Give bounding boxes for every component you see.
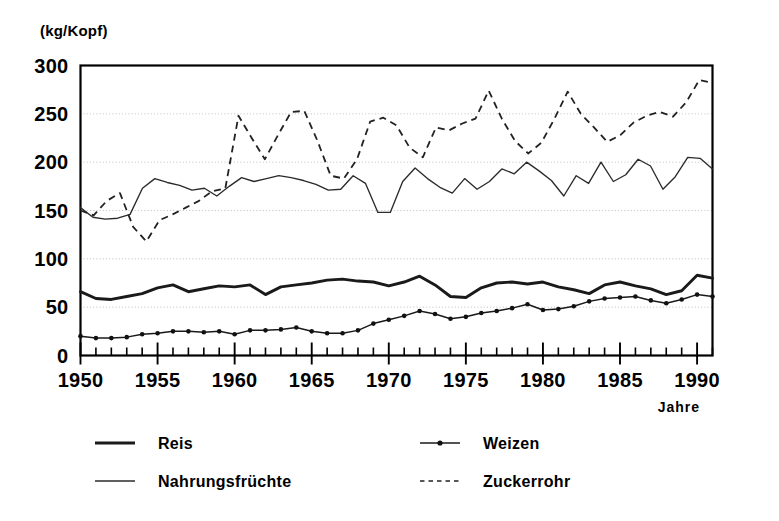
- series-marker-weizen-24: [448, 316, 453, 321]
- series-marker-weizen-1: [94, 336, 99, 341]
- series-marker-weizen-11: [248, 328, 253, 333]
- series-marker-weizen-5: [155, 331, 160, 336]
- x-tick-label-1990: 1990: [674, 369, 720, 391]
- series-marker-weizen-14: [294, 325, 299, 330]
- x-tick-label-1975: 1975: [443, 369, 489, 391]
- y-tick-label-150: 150: [34, 200, 68, 222]
- x-axis-tickmarks: [81, 343, 713, 365]
- series-marker-weizen-34: [602, 296, 607, 301]
- series-marker-weizen-6: [171, 329, 176, 334]
- chart-legend: ReisWeizenNahrungsfrüchteZuckerrohr: [95, 435, 570, 490]
- legend-label-weizen: Weizen: [483, 435, 540, 452]
- gridlines: [81, 114, 713, 307]
- series-marker-weizen-21: [402, 314, 407, 319]
- x-tick-label-1950: 1950: [58, 369, 104, 391]
- x-axis-ticks: 195019551960196519701975198019851990: [58, 369, 720, 391]
- series-marker-weizen-27: [494, 309, 499, 314]
- series-marker-weizen-20: [386, 317, 391, 322]
- legend-item-nahrungsfr-chte[interactable]: Nahrungsfrüchte: [95, 473, 291, 490]
- chart-container: (kg/Kopf) 050100150200250300 19501955196…: [0, 0, 779, 521]
- x-tick-label-1970: 1970: [366, 369, 412, 391]
- y-tick-label-300: 300: [34, 55, 68, 77]
- legend-label-nahrungsfr-chte: Nahrungsfrüchte: [158, 473, 291, 490]
- series-marker-weizen-16: [325, 331, 330, 336]
- x-axis-title: Jahre: [658, 399, 700, 415]
- series-marker-weizen-3: [124, 335, 129, 340]
- series-marker-weizen-22: [417, 309, 422, 314]
- line-chart: (kg/Kopf) 050100150200250300 19501955196…: [0, 0, 779, 521]
- y-axis-ticks: 050100150200250300: [34, 55, 68, 367]
- x-tick-label-1980: 1980: [520, 369, 566, 391]
- series-marker-weizen-17: [340, 331, 345, 336]
- series-marker-weizen-33: [587, 299, 592, 304]
- series-line-reis: [81, 275, 713, 299]
- series-marker-weizen-37: [649, 298, 654, 303]
- legend-item-weizen[interactable]: Weizen: [420, 435, 540, 452]
- x-tick-label-1960: 1960: [212, 369, 258, 391]
- series-marker-weizen-41: [710, 294, 715, 299]
- y-tick-label-0: 0: [57, 345, 68, 367]
- legend-marker-weizen: [437, 440, 442, 445]
- series-marker-weizen-35: [618, 295, 623, 300]
- series-marker-weizen-0: [78, 334, 83, 339]
- series-marker-weizen-7: [186, 329, 191, 334]
- x-tick-label-1985: 1985: [597, 369, 643, 391]
- series-marker-weizen-12: [263, 328, 268, 333]
- series-marker-weizen-30: [541, 308, 546, 313]
- series-marker-weizen-29: [525, 302, 530, 307]
- series-marker-weizen-10: [232, 332, 237, 337]
- series-marker-weizen-26: [479, 311, 484, 316]
- legend-label-zuckerrohr: Zuckerrohr: [483, 473, 570, 490]
- series-marker-weizen-4: [140, 332, 145, 337]
- series-marker-weizen-31: [556, 307, 561, 312]
- series-marker-weizen-36: [633, 294, 638, 299]
- series-marker-weizen-28: [510, 306, 515, 311]
- series-marker-weizen-40: [695, 292, 700, 297]
- series-marker-weizen-39: [679, 297, 684, 302]
- series-marker-weizen-18: [356, 328, 361, 333]
- series-marker-weizen-15: [309, 329, 314, 334]
- legend-label-reis: Reis: [158, 435, 193, 452]
- series-line-nahrungsfr-chte: [81, 157, 713, 219]
- y-tick-label-200: 200: [34, 151, 68, 173]
- series-marker-weizen-8: [202, 330, 207, 335]
- series-marker-weizen-38: [664, 301, 669, 306]
- y-tick-label-250: 250: [34, 103, 68, 125]
- legend-item-zuckerrohr[interactable]: Zuckerrohr: [420, 473, 570, 490]
- y-tick-label-50: 50: [46, 296, 69, 318]
- series-marker-weizen-32: [571, 304, 576, 309]
- y-tick-label-100: 100: [34, 248, 68, 270]
- y-axis-unit-label: (kg/Kopf): [40, 22, 108, 39]
- plot-frame: [81, 66, 713, 356]
- legend-item-reis[interactable]: Reis: [95, 435, 193, 452]
- series-line-zuckerrohr: [81, 80, 713, 241]
- series-line-weizen: [81, 295, 713, 339]
- series-marker-weizen-2: [109, 336, 114, 341]
- series-marker-weizen-19: [371, 321, 376, 326]
- series-marker-weizen-25: [464, 315, 469, 320]
- series-marker-weizen-13: [279, 327, 284, 332]
- x-tick-label-1965: 1965: [289, 369, 335, 391]
- series-marker-weizen-23: [433, 312, 438, 317]
- x-tick-label-1955: 1955: [135, 369, 181, 391]
- series-marker-weizen-9: [217, 329, 222, 334]
